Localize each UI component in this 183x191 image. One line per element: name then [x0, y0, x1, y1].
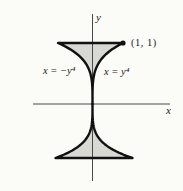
point-1-1-dot — [120, 40, 125, 45]
right-curve-equation-label: x = y⁴ — [104, 67, 129, 78]
y-axis-label: y — [96, 12, 101, 23]
x-axis-label: x — [166, 105, 171, 116]
plot-canvas — [0, 0, 183, 191]
left-curve-equation-label: x = −y⁴ — [43, 66, 75, 77]
quartic-curves-figure: y x x = −y⁴ x = y⁴ (1, 1) — [0, 0, 183, 191]
point-1-1-label: (1, 1) — [131, 38, 157, 49]
